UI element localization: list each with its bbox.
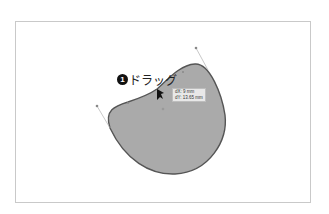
direction-handle-point[interactable]	[96, 105, 99, 108]
direction-handle-point[interactable]	[195, 47, 198, 50]
dy-value: dY: 13.65 mm	[175, 95, 203, 101]
step-number-badge: 1	[117, 74, 128, 85]
center-point	[162, 108, 165, 111]
anchor-point[interactable]	[127, 102, 129, 104]
anchor-point[interactable]	[182, 71, 184, 73]
canvas[interactable]	[0, 0, 329, 214]
step-label-text: ドラッグ	[129, 71, 177, 88]
measurement-tooltip: dX: 9 mm dY: 13.65 mm	[172, 88, 206, 102]
drag-step-annotation: 1 ドラッグ	[117, 71, 177, 88]
